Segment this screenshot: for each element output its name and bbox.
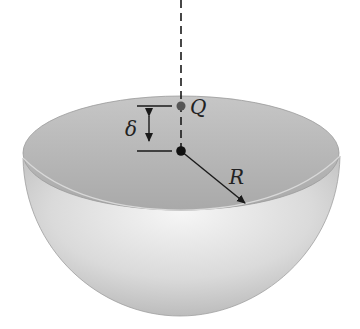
label-delta: δ: [125, 117, 137, 141]
bowl-diagram: Q δ R: [0, 0, 360, 329]
point-q: [177, 102, 186, 111]
center-point: [176, 146, 186, 156]
label-q: Q: [190, 95, 206, 119]
label-radius: R: [228, 165, 244, 189]
